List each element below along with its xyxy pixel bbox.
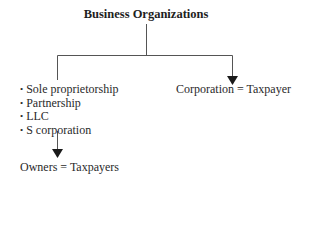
pass-through-entity-list: Sole proprietorship Partnership LLC S co… [20, 83, 118, 137]
list-item: LLC [20, 110, 118, 124]
owners-taxpayers-label: Owners = Taxpayers [20, 160, 119, 175]
list-item: S corporation [20, 124, 118, 138]
corporation-taxpayer-label: Corporation = Taxpayer [176, 82, 291, 97]
list-item: Partnership [20, 97, 118, 111]
list-item: Sole proprietorship [20, 83, 118, 97]
arrow-down-icon [52, 149, 63, 158]
